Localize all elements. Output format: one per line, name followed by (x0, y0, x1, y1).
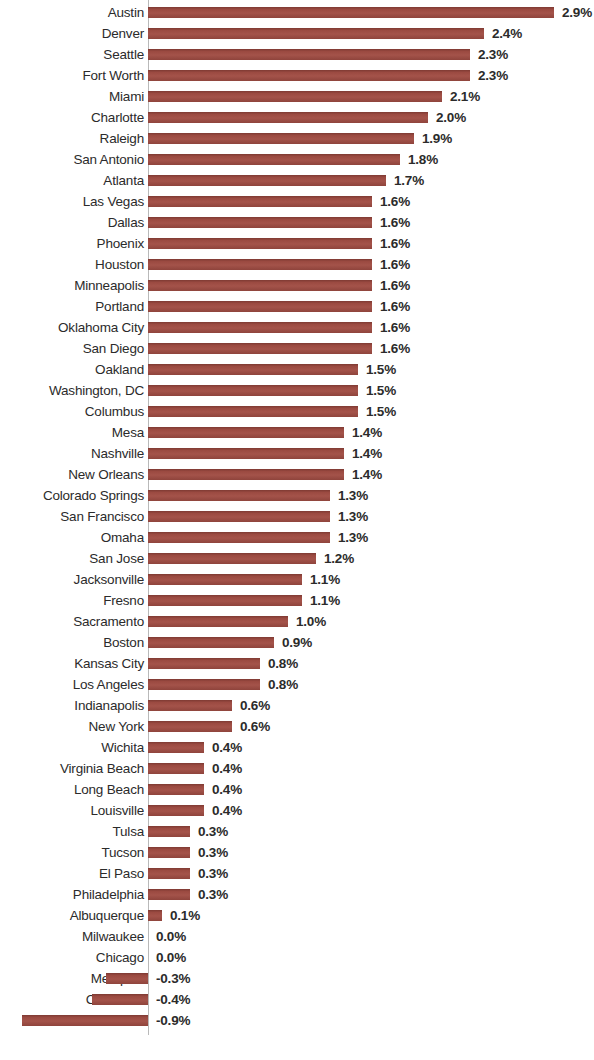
category-label: Las Vegas (83, 191, 144, 212)
value-label: 0.3% (198, 884, 228, 905)
bar-row: Boston0.9% (0, 632, 594, 653)
bar-row: Mesa1.4% (0, 422, 594, 443)
category-label: Wichita (101, 737, 144, 758)
bar (148, 532, 330, 543)
value-label: 1.1% (310, 569, 340, 590)
value-label: 1.4% (352, 443, 382, 464)
category-label: Nashville (91, 443, 144, 464)
value-label: 2.3% (478, 65, 508, 86)
category-label: Omaha (101, 527, 144, 548)
bar-row: Miami2.1% (0, 86, 594, 107)
category-label: Los Angeles (73, 674, 144, 695)
category-label: Denver (102, 23, 144, 44)
value-label: 1.7% (394, 170, 424, 191)
value-label: 0.8% (268, 653, 298, 674)
category-label: Oakland (95, 359, 144, 380)
value-label: 0.8% (268, 674, 298, 695)
bar (148, 427, 344, 438)
value-label: 2.0% (436, 107, 466, 128)
category-label: Long Beach (74, 779, 144, 800)
bar (148, 301, 372, 312)
bar (148, 637, 274, 648)
bar (148, 616, 288, 627)
bar-row: San Antonio1.8% (0, 149, 594, 170)
bar (148, 805, 204, 816)
category-label: Minneapolis (74, 275, 144, 296)
value-label: 0.4% (212, 779, 242, 800)
bar (148, 721, 232, 732)
category-label: Louisville (90, 800, 144, 821)
value-label: 1.5% (366, 401, 396, 422)
bar-row: Seattle2.3% (0, 44, 594, 65)
value-label: 2.9% (562, 2, 592, 23)
horizontal-bar-chart: Austin2.9%Denver2.4%Seattle2.3%Fort Wort… (0, 0, 594, 1060)
value-label: 0.4% (212, 758, 242, 779)
value-label: 2.3% (478, 44, 508, 65)
value-label: 1.6% (380, 233, 410, 254)
bar-row: Sacramento1.0% (0, 611, 594, 632)
bar (148, 868, 190, 879)
bar-row: Phoenix1.6% (0, 233, 594, 254)
value-label: 1.6% (380, 254, 410, 275)
bar-row: Atlanta1.7% (0, 170, 594, 191)
bar (148, 28, 484, 39)
bar (148, 658, 260, 669)
value-label: 1.6% (380, 296, 410, 317)
category-label: Houston (95, 254, 144, 275)
bar (148, 889, 190, 900)
bar (148, 133, 414, 144)
bar-row: Long Beach0.4% (0, 779, 594, 800)
value-label: 1.6% (380, 212, 410, 233)
value-label: 1.5% (366, 380, 396, 401)
bar (148, 910, 162, 921)
category-label: Phoenix (97, 233, 144, 254)
category-label: Kansas City (74, 653, 144, 674)
category-label: San Diego (83, 338, 144, 359)
category-label: Portland (95, 296, 144, 317)
value-label: 1.5% (366, 359, 396, 380)
bar-row: El Paso0.3% (0, 863, 594, 884)
value-label: 1.0% (296, 611, 326, 632)
value-label: -0.9% (156, 1010, 190, 1031)
bar-row: Memphis-0.3% (0, 968, 594, 989)
bar-row: Chicago0.0% (0, 947, 594, 968)
category-label: San Francisco (60, 506, 144, 527)
value-label: -0.4% (156, 989, 190, 1010)
value-label: 1.1% (310, 590, 340, 611)
value-label: 0.3% (198, 863, 228, 884)
bar-row: Louisville0.4% (0, 800, 594, 821)
category-label: Atlanta (103, 170, 144, 191)
value-label: 2.4% (492, 23, 522, 44)
category-label: New Orleans (68, 464, 144, 485)
category-label: El Paso (99, 863, 144, 884)
bar (148, 175, 386, 186)
bar (22, 1015, 148, 1026)
bar-row: Charlotte2.0% (0, 107, 594, 128)
bar (148, 280, 372, 291)
bar (148, 574, 302, 585)
value-label: 0.4% (212, 737, 242, 758)
value-label: 1.6% (380, 275, 410, 296)
category-label: Virginia Beach (60, 758, 144, 779)
value-label: 1.6% (380, 191, 410, 212)
bar (148, 217, 372, 228)
bar-row: New York0.6% (0, 716, 594, 737)
bar (148, 91, 442, 102)
value-label: 1.3% (338, 485, 368, 506)
bar (148, 448, 344, 459)
bar-row: Fresno1.1% (0, 590, 594, 611)
bar (106, 973, 148, 984)
bar-row: Houston1.6% (0, 254, 594, 275)
bar (92, 994, 148, 1005)
category-label: Milwaukee (82, 926, 144, 947)
value-label: 1.6% (380, 338, 410, 359)
bar (148, 238, 372, 249)
category-label: Mesa (112, 422, 144, 443)
value-label: 1.3% (338, 527, 368, 548)
category-label: Fresno (103, 590, 144, 611)
category-label: Charlotte (91, 107, 144, 128)
bar (148, 112, 428, 123)
value-label: 0.3% (198, 842, 228, 863)
bar-row: Austin2.9% (0, 2, 594, 23)
bar-row: Tucson0.3% (0, 842, 594, 863)
